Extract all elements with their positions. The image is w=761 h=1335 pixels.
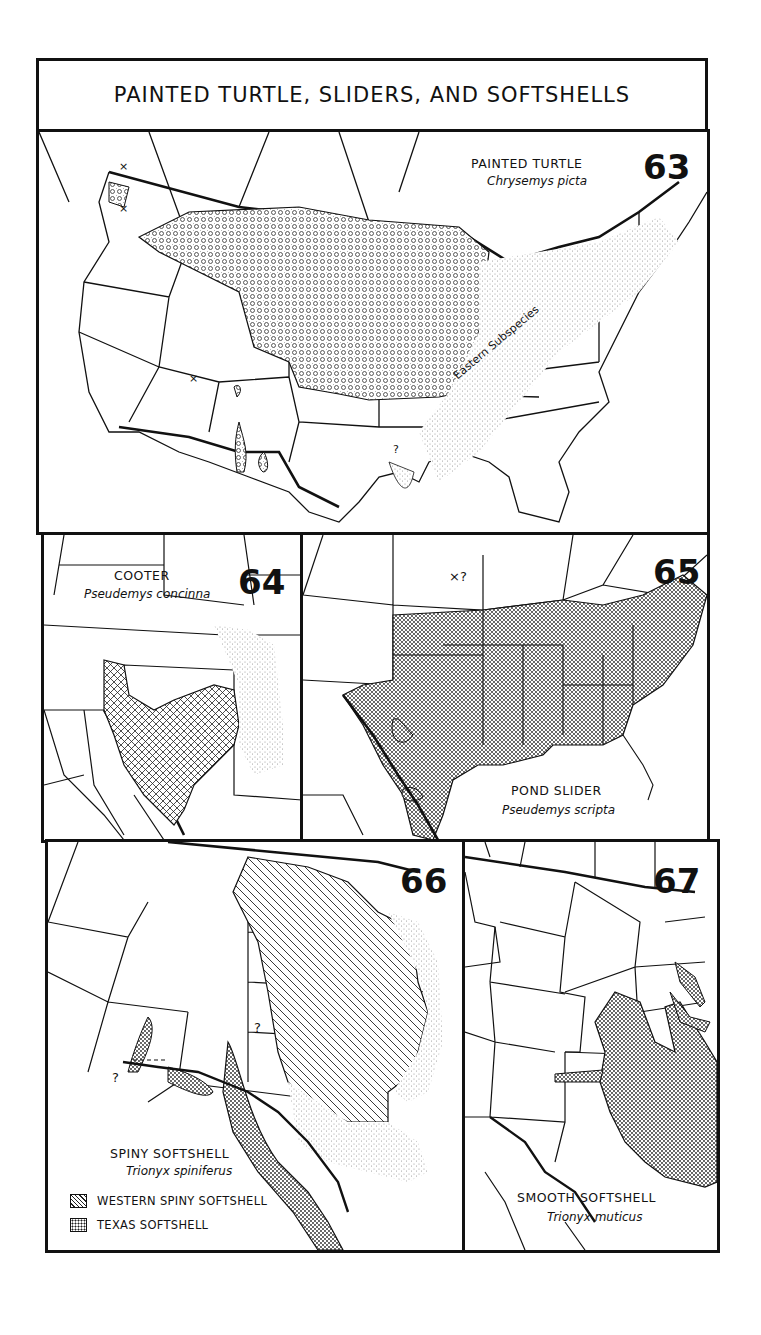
diagonal-hatch-swatch-icon — [70, 1194, 87, 1208]
isolated-record-marker: × — [119, 160, 128, 173]
plate-title: PAINTED TURTLE, SLIDERS, AND SOFTSHELLS — [114, 83, 630, 107]
common-name-66: SPINY SOFTSHELL — [110, 1146, 229, 1161]
common-name-64: COOTER — [114, 568, 170, 583]
uncertain-range-marker: ? — [254, 1020, 261, 1035]
scientific-name-66: Trionyx spiniferus — [126, 1164, 232, 1178]
questionable-record-marker: ×? — [449, 569, 467, 584]
scientific-name-64: Pseudemys concinna — [84, 587, 210, 601]
painted-turtle-range-map — [39, 132, 707, 532]
legend-label: TEXAS SOFTSHELL — [97, 1218, 208, 1232]
legend-item-western-spiny: WESTERN SPINY SOFTSHELL — [70, 1194, 267, 1208]
plate-title-box: PAINTED TURTLE, SLIDERS, AND SOFTSHELLS — [36, 58, 708, 132]
map-panel-64: 64 COOTER Pseudemys concinna — [41, 532, 305, 843]
map-number-65: 65 — [653, 555, 700, 589]
dot-stipple-swatch-icon — [70, 1218, 87, 1232]
common-name-63: PAINTED TURTLE — [471, 156, 583, 171]
map-number-63: 63 — [643, 150, 690, 184]
map-number-64: 64 — [238, 565, 285, 599]
map-number-67: 67 — [653, 864, 700, 898]
map-number-66: 66 — [400, 864, 447, 898]
uncertain-range-marker: ? — [112, 1070, 119, 1085]
map-panel-63: 63 PAINTED TURTLE Chrysemys picta Easter… — [36, 129, 710, 535]
common-name-67: SMOOTH SOFTSHELL — [517, 1190, 656, 1205]
legend-item-texas-softshell: TEXAS SOFTSHELL — [70, 1218, 208, 1232]
spiny-softshell-range-map — [48, 842, 463, 1250]
scientific-name-67: Trionyx muticus — [547, 1210, 642, 1224]
map-panel-65: 65 ×? POND SLIDER Pseudemys scripta — [300, 532, 710, 843]
legend-label: WESTERN SPINY SOFTSHELL — [97, 1194, 267, 1208]
scientific-name-63: Chrysemys picta — [487, 174, 587, 188]
map-panel-66: 66 ? ? SPINY SOFTSHELL Trionyx spiniferu… — [45, 839, 466, 1253]
uncertain-range-marker: ? — [393, 443, 399, 456]
map-panel-67: 67 SMOOTH SOFTSHELL Trionyx muticus — [462, 839, 720, 1253]
isolated-record-marker: × — [189, 372, 198, 385]
isolated-record-marker: × — [119, 202, 128, 215]
smooth-softshell-range-map — [465, 842, 717, 1250]
scientific-name-65: Pseudemys scripta — [502, 803, 615, 817]
pond-slider-range-map — [303, 535, 707, 840]
common-name-65: POND SLIDER — [511, 783, 602, 798]
